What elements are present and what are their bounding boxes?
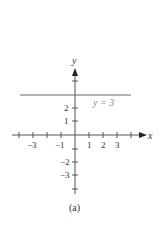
x-axis-label: x: [147, 130, 153, 141]
y-tick-label-1: 1: [64, 116, 69, 126]
x-tick-label-3: 3: [115, 140, 120, 150]
x-tick-label-2: 2: [101, 140, 106, 150]
y-tick-label-m3: −3: [60, 170, 70, 180]
y-axis-label: y: [71, 55, 77, 66]
x-tick-label-m3: −3: [27, 140, 37, 150]
equation-label: y = 3: [92, 97, 114, 108]
y-tick-label-m2: −2: [60, 157, 70, 167]
y-tick-label-2: 2: [64, 103, 69, 113]
x-tick-label-m1: −1: [55, 140, 65, 150]
coordinate-plane: y x y = 3 −3 −1 1 2 3 2 1 −2 −3 (a): [0, 0, 165, 232]
x-axis-arrow-icon: [139, 132, 147, 138]
y-axis-arrow-icon: [72, 68, 78, 76]
figure-caption: (a): [69, 202, 80, 214]
x-tick-label-1: 1: [87, 140, 92, 150]
